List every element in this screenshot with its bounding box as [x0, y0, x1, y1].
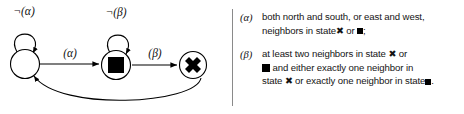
legend-text: . — [431, 75, 434, 86]
filled-square-marker — [108, 57, 124, 73]
figure-automaton-with-legend: ¬(α) ¬(β) (α) (β) (α) both north and sou… — [0, 0, 464, 114]
vertical-divider — [232, 9, 233, 106]
legend-text: ; — [363, 25, 366, 36]
legend-text: or — [344, 25, 357, 36]
legend-item-beta: (β) at least two neighbors in state ✖ or… — [240, 47, 464, 88]
legend-line: and either exactly one neighbor in — [262, 61, 464, 75]
legend-line: state ✖ or exactly one neighbor in state… — [262, 74, 464, 88]
label-alpha: (α) — [63, 47, 77, 60]
legend-panel: (α) both north and south, or east and we… — [240, 10, 464, 110]
state-empty — [11, 50, 40, 79]
legend-text: or exactly one neighbor in state — [293, 75, 426, 86]
legend-text: or — [396, 48, 407, 59]
state-x-glyph: ✖ — [336, 25, 344, 36]
state-x-glyph: ✖ — [388, 48, 396, 59]
legend-tag-beta: (β) — [240, 47, 262, 61]
legend-text: at least two neighbors in state — [262, 48, 388, 59]
label-not-beta: ¬(β) — [105, 6, 126, 19]
legend-item-alpha: (α) both north and south, or east and we… — [240, 10, 464, 37]
legend-line: both north and south, or east and west, — [262, 10, 464, 24]
legend-line: at least two neighbors in state ✖ or — [262, 47, 464, 61]
state-transition-diagram: ¬(α) ¬(β) (α) (β) — [0, 0, 232, 114]
state-x-glyph: ✖ — [285, 75, 293, 86]
state-square-glyph — [262, 64, 270, 72]
legend-body-beta: at least two neighbors in state ✖ or and… — [262, 47, 464, 88]
label-not-alpha: ¬(α) — [13, 5, 35, 18]
legend-text: neighbors in state — [262, 25, 336, 36]
label-beta: (β) — [148, 47, 162, 60]
diagram-canvas: ¬(α) ¬(β) (α) (β) — [0, 0, 232, 114]
legend-body-alpha: both north and south, or east and west, … — [262, 10, 464, 37]
legend-line: neighbors in state✖ or ; — [262, 24, 464, 38]
legend-text: state — [262, 75, 285, 86]
legend-text: and either exactly one neighbor in — [270, 62, 413, 73]
legend-tag-alpha: (α) — [240, 10, 262, 24]
